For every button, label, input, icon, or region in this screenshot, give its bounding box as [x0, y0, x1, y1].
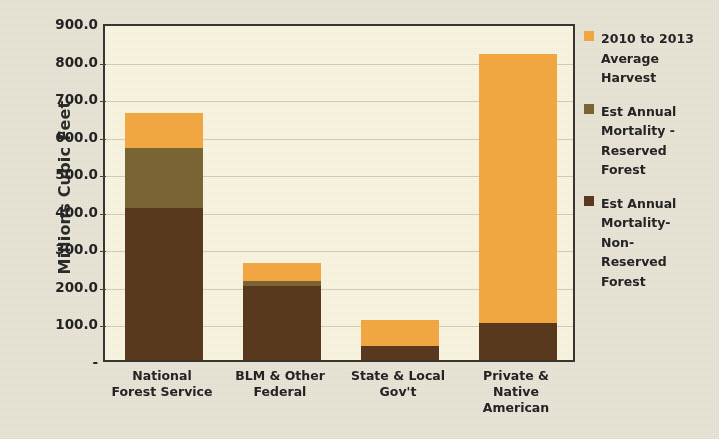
x-axis-tick-label: NationalForest Service	[103, 368, 221, 400]
y-axis-tick-label: 400.0	[36, 204, 98, 220]
y-axis-tick-labels: 900.0800.0700.0600.0500.0400.0300.0200.0…	[36, 0, 98, 439]
bar-segment[interactable]	[243, 281, 321, 286]
x-axis-tick-labels: NationalForest ServiceBLM & OtherFederal…	[103, 368, 575, 438]
x-axis-tick-label: BLM & OtherFederal	[221, 368, 339, 400]
y-axis-tick-label: 100.0	[36, 316, 98, 332]
bar-group[interactable]	[479, 22, 557, 360]
chart-figure: Millions Cubic Feet 900.0800.0700.0600.0…	[0, 0, 719, 439]
square-swatch-icon	[584, 31, 594, 41]
square-swatch-icon	[584, 104, 594, 114]
bar-group[interactable]	[361, 22, 439, 360]
bar-segment[interactable]	[125, 113, 203, 148]
chart-legend: 2010 to 2013 Average HarvestEst Annual M…	[584, 28, 716, 304]
y-axis-tick-label: 700.0	[36, 91, 98, 107]
bar-segment[interactable]	[243, 286, 321, 360]
y-axis-tick-label: 800.0	[36, 54, 98, 70]
bar-group[interactable]	[243, 22, 321, 360]
legend-entry[interactable]: 2010 to 2013 Average Harvest	[584, 28, 716, 87]
y-axis-tick-label: 200.0	[36, 279, 98, 295]
bar-segment[interactable]	[125, 208, 203, 360]
bar-series-container	[105, 26, 573, 360]
square-swatch-icon	[584, 196, 594, 206]
bar-segment[interactable]	[125, 148, 203, 208]
plot-area	[103, 24, 575, 362]
bar-segment[interactable]	[479, 323, 557, 360]
legend-label: 2010 to 2013 Average Harvest	[601, 31, 694, 85]
legend-label: Est Annual Mortality - Reserved Forest	[601, 104, 676, 178]
x-axis-tick-label: Private &NativeAmerican	[457, 368, 575, 416]
legend-entry[interactable]: Est Annual Mortality - Reserved Forest	[584, 101, 716, 179]
legend-entry[interactable]: Est Annual Mortality- Non- Reserved Fore…	[584, 193, 716, 291]
x-axis-tick-label: State & LocalGov't	[339, 368, 457, 400]
legend-label: Est Annual Mortality- Non- Reserved Fore…	[601, 196, 676, 289]
bar-segment[interactable]	[361, 320, 439, 346]
y-axis-tick-label: 300.0	[36, 241, 98, 257]
y-axis-tick-label: 500.0	[36, 166, 98, 182]
bar-segment[interactable]	[361, 346, 439, 360]
bar-segment[interactable]	[243, 263, 321, 281]
bar-group[interactable]	[125, 22, 203, 360]
y-axis-tick-label: 600.0	[36, 129, 98, 145]
y-axis-tick-label: -	[36, 354, 98, 370]
y-axis-tick-label: 900.0	[36, 16, 98, 32]
bar-segment[interactable]	[479, 54, 557, 323]
